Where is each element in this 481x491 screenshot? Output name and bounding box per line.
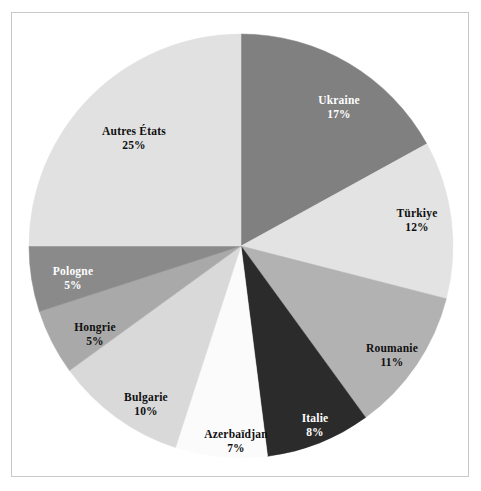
pie-slices-group <box>29 34 453 458</box>
pie-slice-autres-tats[interactable] <box>29 34 241 246</box>
pie-chart: Ukraine17%Türkiye12%Roumanie11%Italie8%A… <box>0 0 481 491</box>
pie-svg <box>0 0 481 491</box>
pie-chart-page: Ukraine17%Türkiye12%Roumanie11%Italie8%A… <box>0 0 481 491</box>
